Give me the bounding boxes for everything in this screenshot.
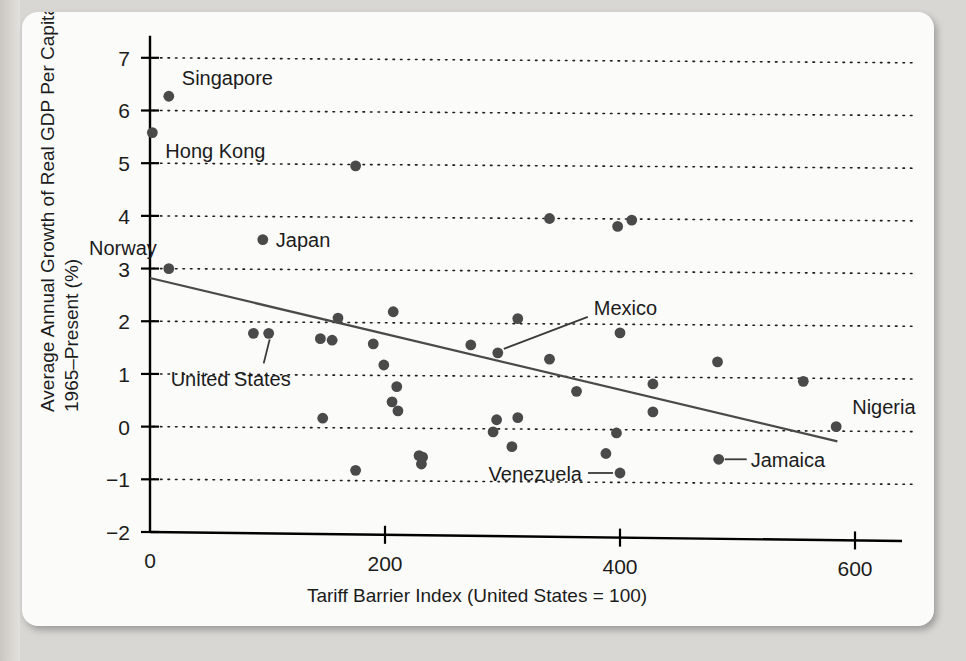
y-tick-label--2: −2 (106, 521, 130, 544)
data-point-venezuela (615, 468, 626, 479)
data-point-35 (507, 441, 518, 452)
x-tick-label-0: 0 (144, 549, 156, 572)
y-tick-label-7: 7 (118, 47, 130, 70)
label-singapore: Singapore (182, 67, 273, 89)
data-point-10 (512, 313, 523, 324)
x-tick-label-600: 600 (837, 557, 872, 580)
data-point-2 (350, 160, 361, 171)
y-axis-title-line-2: 1965–Present (%) (61, 259, 82, 412)
gridline-y-7 (153, 58, 912, 63)
data-point-jamaica (713, 454, 724, 465)
y-tick-label-4: 4 (118, 205, 130, 228)
gridline-y-0 (153, 427, 912, 432)
label-venezuela: Venezuela (489, 463, 583, 485)
data-point-14 (315, 333, 326, 344)
data-point-34 (611, 428, 622, 439)
label-japan: Japan (276, 229, 331, 251)
x-tick-label-200: 200 (367, 552, 402, 575)
data-point-33 (488, 426, 499, 437)
data-point-26 (387, 396, 398, 407)
data-point-singapore (163, 91, 174, 102)
data-point-3 (544, 213, 555, 224)
data-point-36 (601, 448, 612, 459)
data-point-4 (612, 221, 623, 232)
gridline-y-5 (153, 163, 912, 168)
gridline-y-6 (153, 110, 912, 115)
data-point-21 (378, 360, 389, 371)
label-nigeria: Nigeria (852, 396, 916, 418)
label-norway: Norway (89, 237, 157, 259)
gridline-y-2 (153, 321, 912, 326)
data-point-nigeria (831, 421, 842, 432)
y-axis-title: Average Annual Growth of Real GDP Per Ca… (37, 12, 82, 412)
data-point-22 (798, 376, 809, 387)
gridlines (153, 58, 912, 485)
y-tick-label--1: −1 (106, 468, 130, 491)
x-tick-label-400: 400 (602, 555, 637, 578)
x-axis-title: Tariff Barrier Index (United States = 10… (307, 585, 647, 606)
data-point-5 (626, 215, 637, 226)
data-point-40 (416, 459, 427, 470)
data-point-united-states (263, 328, 274, 339)
x-axis-tick-labels: 0200400600 (144, 549, 872, 580)
gridline-y-3 (153, 269, 912, 274)
data-point-27 (393, 405, 404, 416)
data-point-15 (327, 335, 338, 346)
y-tick-label-2: 2 (118, 310, 130, 333)
point-annotations: SingaporeHong KongJapanNorwayUnited Stat… (89, 67, 916, 485)
data-point-9 (333, 313, 344, 324)
y-tick-label-5: 5 (118, 152, 130, 175)
data-point-17 (465, 340, 476, 351)
label-jamaica: Jamaica (751, 449, 826, 471)
scatter-plot: −2−101234567 0200400600 SingaporeHong Ko… (22, 12, 934, 626)
data-point-20 (712, 356, 723, 367)
label-mexico: Mexico (594, 297, 657, 319)
data-point-23 (648, 379, 659, 390)
data-point-41 (350, 465, 361, 476)
y-tick-label-0: 0 (118, 416, 130, 439)
data-point-11 (248, 328, 259, 339)
data-point-28 (648, 406, 659, 417)
data-point-25 (571, 386, 582, 397)
y-axis-title-line-1: Average Annual Growth of Real GDP Per Ca… (37, 12, 58, 412)
data-point-29 (317, 413, 328, 424)
data-point-24 (391, 381, 402, 392)
figure-card: −2−101234567 0200400600 SingaporeHong Ko… (22, 12, 934, 626)
label-united-states: United States (171, 368, 291, 390)
x-axis-ticks (385, 526, 855, 550)
y-tick-label-3: 3 (118, 258, 130, 281)
page-gutter-shadow (0, 0, 20, 661)
data-point-8 (388, 306, 399, 317)
data-point-mexico (492, 347, 503, 358)
data-point-16 (368, 339, 379, 350)
data-point-30 (491, 414, 502, 425)
y-tick-label-1: 1 (118, 363, 130, 386)
x-axis-line (150, 532, 902, 541)
y-tick-label-6: 6 (118, 99, 130, 122)
data-point-19 (544, 354, 555, 365)
leader-united-states (264, 339, 270, 363)
page-background: −2−101234567 0200400600 SingaporeHong Ko… (0, 0, 966, 661)
data-point-31 (512, 412, 523, 423)
chart-canvas: −2−101234567 0200400600 SingaporeHong Ko… (22, 12, 934, 626)
data-point-norway (163, 263, 174, 274)
y-axis-tick-labels: −2−101234567 (106, 47, 130, 544)
data-point-hong-kong (147, 127, 158, 138)
gridline-y-4 (153, 216, 912, 221)
data-point-japan (257, 234, 268, 245)
data-point-13 (615, 327, 626, 338)
label-hong-kong: Hong Kong (165, 140, 265, 162)
